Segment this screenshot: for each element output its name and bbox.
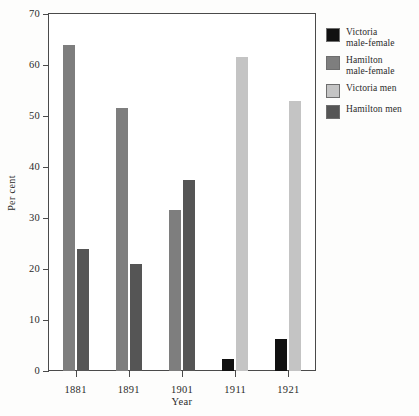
legend-swatch-icon <box>326 28 340 42</box>
bar <box>183 180 195 371</box>
legend-item[interactable]: Hamilton men <box>326 104 419 119</box>
y-tick-mark <box>43 320 49 321</box>
x-tick-label: 1921 <box>258 384 318 395</box>
y-tick-mark <box>43 14 49 15</box>
legend-label: Hamilton male-female <box>346 55 395 77</box>
x-tick-mark <box>76 371 77 377</box>
y-tick-mark <box>43 167 49 168</box>
bar <box>275 339 287 371</box>
plot-area: Per cent 0102030405060701881189119011911… <box>49 14 315 371</box>
x-tick-mark <box>182 371 183 377</box>
x-tick-label: 1911 <box>205 384 265 395</box>
y-tick-mark <box>43 371 49 372</box>
bar <box>169 210 181 371</box>
x-axis-label: Year <box>49 396 315 407</box>
x-tick-mark <box>288 371 289 377</box>
y-tick-mark <box>43 269 49 270</box>
legend-label: Victoria male-female <box>346 27 395 49</box>
bar <box>236 57 248 371</box>
bar <box>222 359 234 371</box>
bar <box>77 249 89 371</box>
legend-swatch-icon <box>326 105 340 119</box>
x-tick-label: 1881 <box>46 384 106 395</box>
legend-label: Victoria men <box>346 83 397 94</box>
x-tick-label: 1901 <box>152 384 212 395</box>
x-tick-mark <box>129 371 130 377</box>
chart-figure: Per cent 0102030405060701881189119011911… <box>0 0 419 416</box>
bar <box>130 264 142 371</box>
legend-swatch-icon <box>326 56 340 70</box>
y-tick-mark <box>43 218 49 219</box>
x-tick-mark <box>235 371 236 377</box>
chart-legend: Victoria male-femaleHamilton male-female… <box>326 27 419 125</box>
legend-swatch-icon <box>326 84 340 98</box>
legend-label: Hamilton men <box>346 104 402 115</box>
legend-item[interactable]: Victoria male-female <box>326 27 419 49</box>
bar <box>289 101 301 371</box>
y-axis-label: Per cent <box>6 175 17 211</box>
y-tick-mark <box>43 65 49 66</box>
y-tick-mark <box>43 116 49 117</box>
bar <box>116 108 128 371</box>
x-tick-label: 1891 <box>99 384 159 395</box>
legend-item[interactable]: Victoria men <box>326 83 419 98</box>
legend-item[interactable]: Hamilton male-female <box>326 55 419 77</box>
bar <box>63 45 75 371</box>
